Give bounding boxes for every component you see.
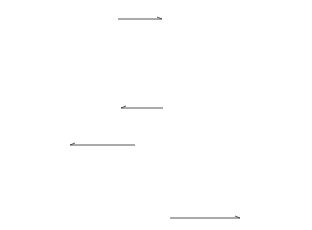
arrow-B-top-left bbox=[70, 143, 135, 145]
arrow-b-top-right bbox=[118, 17, 162, 19]
arrow-B-bottom-right bbox=[170, 216, 240, 218]
arrow-b-bottom-left bbox=[121, 106, 163, 108]
shear-diagram bbox=[0, 0, 312, 230]
